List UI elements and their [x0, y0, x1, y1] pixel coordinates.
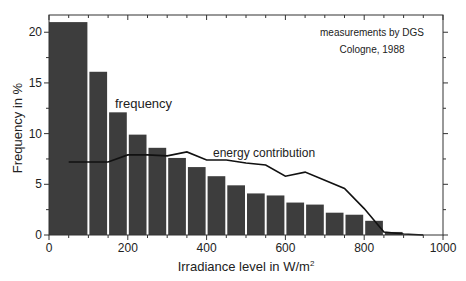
energy-contribution-label: energy contribution	[213, 146, 315, 160]
bar	[208, 176, 226, 235]
x-tick-label: 200	[118, 241, 138, 255]
bar	[168, 158, 186, 235]
bar	[49, 22, 87, 235]
y-tick-label: 5	[35, 177, 42, 191]
y-tick-label: 10	[29, 127, 43, 141]
x-tick-label: 1000	[430, 241, 457, 255]
source-annotation: measurements by DGS	[320, 27, 424, 38]
bar	[247, 193, 265, 235]
bar	[89, 72, 107, 235]
bar	[306, 205, 324, 235]
x-tick-label: 0	[46, 241, 53, 255]
y-axis-title: Frequency in %	[10, 82, 25, 173]
x-tick-label: 400	[197, 241, 217, 255]
y-tick-label: 0	[35, 228, 42, 242]
bar	[188, 167, 206, 235]
bar	[149, 148, 167, 235]
bar	[267, 195, 285, 235]
bar	[109, 112, 127, 235]
histogram-chart: 02004006008001000 05101520 Irradiance le…	[0, 0, 466, 281]
bar	[326, 213, 344, 235]
x-tick-labels: 02004006008001000	[46, 241, 457, 255]
x-tick-label: 600	[275, 241, 295, 255]
bar	[227, 185, 245, 235]
x-axis-title: Irradiance level in W/m2	[178, 259, 315, 274]
location-annotation: Cologne, 1988	[339, 44, 404, 55]
x-tick-label: 800	[354, 241, 374, 255]
frequency-label: frequency	[115, 96, 173, 111]
bar	[346, 215, 364, 235]
bar	[129, 135, 147, 235]
y-tick-labels: 05101520	[29, 25, 43, 242]
y-tick-label: 20	[29, 25, 43, 39]
bar	[286, 203, 304, 235]
y-tick-label: 15	[29, 76, 43, 90]
